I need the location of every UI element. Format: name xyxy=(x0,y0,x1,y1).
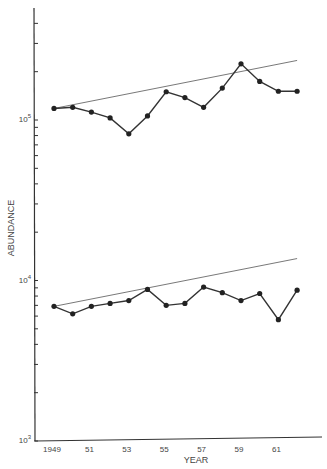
data-point xyxy=(89,110,94,115)
x-tick-label: 59 xyxy=(235,445,244,454)
trend-lines xyxy=(54,60,297,306)
x-tick-label: 61 xyxy=(272,445,281,454)
data-point xyxy=(295,288,300,293)
data-point xyxy=(126,131,131,136)
x-tick-label: 55 xyxy=(160,445,169,454)
data-point xyxy=(182,95,187,100)
data-point xyxy=(276,317,281,322)
x-tick-label: 53 xyxy=(122,445,131,454)
y-axis-label: ABUNDANCE xyxy=(6,200,16,257)
y-tick-label: 104 xyxy=(19,274,32,285)
y-tick-labels: 103104105 xyxy=(19,113,32,445)
abundance-chart: 103104105 1949515355575961 ABUNDANCE YEA… xyxy=(0,0,327,469)
data-point xyxy=(89,304,94,309)
x-tick-label: 1949 xyxy=(43,445,61,454)
data-point xyxy=(164,303,169,308)
y-axis xyxy=(34,8,35,441)
y-tick-label: 105 xyxy=(19,113,32,124)
trend-line-upper xyxy=(54,60,297,108)
data-point xyxy=(220,290,225,295)
data-point xyxy=(126,298,131,303)
data-point xyxy=(257,79,262,84)
x-axis-label: YEAR xyxy=(184,455,209,465)
data-point xyxy=(238,298,243,303)
data-series xyxy=(51,61,299,322)
x-tick-label: 51 xyxy=(85,445,94,454)
data-point xyxy=(108,301,113,306)
data-point xyxy=(70,105,75,110)
data-point xyxy=(238,61,243,66)
data-point xyxy=(145,287,150,292)
x-axis xyxy=(35,437,322,441)
data-point xyxy=(201,284,206,289)
data-point xyxy=(51,304,56,309)
data-point xyxy=(220,86,225,91)
trend-line-lower xyxy=(54,259,297,307)
y-tick-label: 103 xyxy=(19,434,32,445)
data-point xyxy=(201,105,206,110)
data-point xyxy=(108,115,113,120)
series-line-upper xyxy=(54,64,297,134)
data-point xyxy=(70,311,75,316)
data-point xyxy=(145,113,150,118)
x-tick-label: 57 xyxy=(197,445,206,454)
data-point xyxy=(276,89,281,94)
data-point xyxy=(164,89,169,94)
data-point xyxy=(51,106,56,111)
axes: 103104105 1949515355575961 ABUNDANCE YEA… xyxy=(6,8,322,465)
data-point xyxy=(257,291,262,296)
data-point xyxy=(182,301,187,306)
data-point xyxy=(295,89,300,94)
x-tick-labels: 1949515355575961 xyxy=(43,445,281,454)
